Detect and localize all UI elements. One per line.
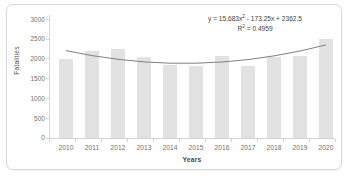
trendline-annotation: y = 15.683x2 - 173.25x + 2362.5 R2 = 0.4…: [185, 14, 325, 33]
bar-2010: [59, 59, 73, 138]
x-tick-label-2020: 2020: [309, 144, 343, 151]
trendline-equation: y = 15.683x2 - 173.25x + 2362.5: [185, 14, 325, 24]
bar-2012: [111, 49, 125, 138]
chart-figure: 3000 2500 2000 1500 1000 500 0 Fatalitie…: [6, 4, 342, 170]
y-tick-label-2500: 2500: [15, 36, 45, 42]
y-axis-tick-labels: 3000 2500 2000 1500 1000 500 0: [15, 5, 45, 171]
r-squared-value: = 0.4959: [245, 25, 273, 32]
equation-prefix: y = 15.683x: [208, 15, 242, 22]
x-tick-mark-8: [257, 139, 258, 142]
bar-2013: [137, 57, 151, 138]
bar-2019: [293, 56, 307, 138]
x-tick-mark-10: [309, 139, 310, 142]
y-tick-mark-500: [46, 118, 49, 119]
y-tick-mark-1500: [46, 78, 49, 79]
y-tick-label-0: 0: [15, 135, 45, 141]
y-tick-label-1500: 1500: [15, 76, 45, 82]
x-tick-mark-4: [153, 139, 154, 142]
bar-2015: [189, 66, 203, 138]
x-axis-line: [49, 138, 335, 139]
y-tick-mark-1000: [46, 98, 49, 99]
y-tick-label-2000: 2000: [15, 56, 45, 62]
bar-2016: [215, 56, 229, 139]
x-tick-mark-11: [335, 139, 336, 142]
x-tick-mark-1: [75, 139, 76, 142]
x-tick-mark-2: [101, 139, 102, 142]
r-squared-line: R2 = 0.4959: [185, 24, 325, 34]
bar-2020: [319, 39, 333, 138]
y-axis-line: [49, 15, 50, 139]
equation-suffix: - 173.25x + 2362.5: [245, 15, 302, 22]
plot-region: 3000 2500 2000 1500 1000 500 0 Fatalitie…: [7, 5, 343, 171]
x-axis-title: Years: [49, 156, 335, 163]
x-tick-mark-9: [283, 139, 284, 142]
y-axis-title: Fatalities: [13, 26, 20, 96]
x-tick-mark-6: [205, 139, 206, 142]
y-tick-mark-3000: [46, 19, 49, 20]
y-tick-mark-2000: [46, 58, 49, 59]
y-tick-label-500: 500: [15, 116, 45, 122]
y-tick-label-1000: 1000: [15, 96, 45, 102]
y-tick-label-3000: 3000: [15, 17, 45, 23]
x-tick-mark-0: [49, 139, 50, 142]
bar-2018: [267, 57, 281, 138]
bar-2017: [241, 66, 255, 138]
x-tick-mark-5: [179, 139, 180, 142]
bar-2011: [85, 51, 99, 138]
y-tick-mark-2500: [46, 39, 49, 40]
trendline-path: [66, 45, 326, 63]
bar-2014: [163, 65, 177, 138]
x-tick-mark-3: [127, 139, 128, 142]
x-tick-mark-7: [231, 139, 232, 142]
